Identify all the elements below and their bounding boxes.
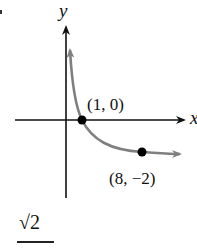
fraction-bar [17, 241, 54, 243]
fraction-numerator: √2 [17, 211, 42, 234]
point-8-neg2 [138, 148, 147, 157]
point-label-1-0: (1, 0) [87, 95, 124, 115]
point-label-8-neg2: (8, −2) [109, 169, 155, 189]
stray-mark [0, 10, 2, 14]
log-curve [70, 50, 82, 120]
y-axis-label: y [59, 0, 67, 22]
fraction-fragment: √2 [17, 211, 42, 234]
point-1-0 [78, 116, 87, 125]
x-axis-label: x [190, 107, 197, 129]
log-curve-tail [82, 120, 180, 154]
